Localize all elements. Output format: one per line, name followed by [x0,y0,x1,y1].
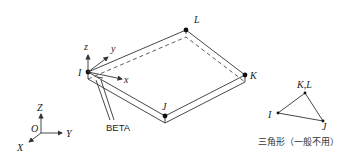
local-z-label: z [83,41,88,52]
triangle-node-kl-label: K,L [296,79,312,90]
triangle-element [277,92,325,123]
shell-element-diagram: I L K J z y x BETA Z O Y X K,L I J 三角形（一… [0,0,357,158]
beta-label: BETA [106,122,131,133]
global-y-label: Y [66,128,73,139]
node-k-dot [243,73,248,78]
global-x-label: X [16,142,24,153]
node-j-dot [163,114,168,119]
global-z-label: Z [37,102,43,113]
global-origin-label: O [31,123,38,134]
local-y-label: y [110,43,116,54]
triangle-node-kl-dot [304,92,307,95]
node-l-label: L [193,14,200,25]
triangle-outline [278,93,323,121]
triangle-node-i-label: I [267,109,272,120]
node-i-label: I [77,67,82,78]
local-x-label: x [123,74,129,85]
global-x-axis-arrow-icon [29,133,41,142]
node-l-dot [184,28,189,33]
local-x-axis-arrow-icon [88,72,122,79]
triangle-node-i-dot [277,112,280,115]
triangle-node-j-label: J [322,121,327,132]
node-k-label: K [249,70,258,81]
node-j-label: J [162,101,167,112]
triangle-caption: 三角形（一般不用） [258,136,339,147]
